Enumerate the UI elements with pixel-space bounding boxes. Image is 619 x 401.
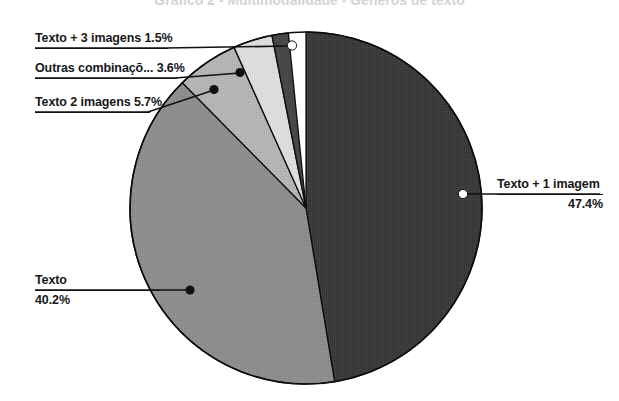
pie-slice-layer bbox=[130, 32, 482, 384]
dot-texto-2-imagens bbox=[209, 85, 218, 94]
label-texto-3-imagens: Texto + 3 imagens 1.5% bbox=[35, 31, 173, 45]
pie-slice[interactable] bbox=[306, 32, 482, 382]
dot-texto bbox=[185, 285, 194, 294]
pie-chart-figure: Gráfico 2 - Multimodalidade - Géneros de… bbox=[0, 0, 619, 401]
rule-outras bbox=[35, 78, 177, 79]
label-outras: Outras combinaçõ... 3.6% bbox=[35, 61, 185, 75]
rule-texto-3-imagens bbox=[35, 48, 168, 49]
dot-texto-1-imagem bbox=[458, 189, 467, 198]
dot-outras bbox=[235, 68, 244, 77]
rule-texto bbox=[35, 290, 160, 291]
dot-texto-3-imagens bbox=[287, 41, 296, 50]
label-texto-1-imagem-pct: 47.4% bbox=[497, 197, 603, 211]
label-texto-1-imagem-name: Texto + 1 imagem bbox=[497, 177, 600, 191]
label-texto-2-imagens: Texto 2 imagens 5.7% bbox=[35, 95, 162, 109]
label-texto-name: Texto bbox=[35, 273, 67, 287]
rule-texto-1-imagem bbox=[497, 194, 603, 195]
label-texto-pct: 40.2% bbox=[35, 293, 70, 307]
rule-texto-2-imagens bbox=[35, 112, 150, 113]
